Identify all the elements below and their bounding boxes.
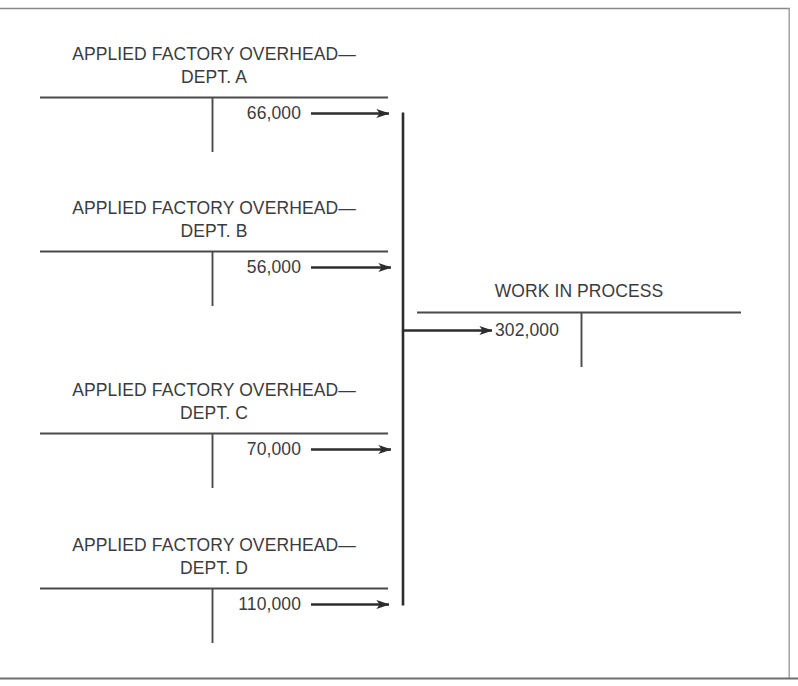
t-account-title-line2: DEPT. A (40, 66, 388, 89)
t-account-dept-b (40, 252, 391, 307)
t-account-title-line2: DEPT. D (40, 557, 388, 580)
t-account-title-dept-a: APPLIED FACTORY OVERHEAD— DEPT. A (40, 43, 388, 89)
t-account-title-line1: APPLIED FACTORY OVERHEAD— (72, 44, 356, 64)
t-account-work-in-process (417, 313, 741, 368)
t-account-title-line2: DEPT. B (40, 220, 388, 243)
t-account-title-dept-b: APPLIED FACTORY OVERHEAD— DEPT. B (40, 197, 388, 243)
t-account-title-line1: APPLIED FACTORY OVERHEAD— (72, 535, 356, 555)
t-account-title-dept-d: APPLIED FACTORY OVERHEAD— DEPT. D (40, 534, 388, 580)
t-account-dept-c (40, 434, 391, 489)
credit-amount-dept-b: 56,000 (218, 257, 301, 278)
credit-amount-dept-c: 70,000 (218, 439, 301, 460)
t-account-title-dept-c: APPLIED FACTORY OVERHEAD— DEPT. C (40, 379, 388, 425)
t-account-title-line2: DEPT. C (40, 402, 388, 425)
t-account-flow-svg (0, 0, 798, 686)
t-account-dept-d (40, 589, 389, 644)
credit-amount-dept-d: 110,000 (218, 594, 301, 615)
t-account-dept-a (40, 98, 389, 153)
debit-amount-work-in-process: 302,000 (495, 320, 559, 341)
t-account-title-work-in-process: WORK IN PROCESS (417, 281, 741, 302)
t-account-title-line1: APPLIED FACTORY OVERHEAD— (72, 380, 356, 400)
t-account-title-line1: APPLIED FACTORY OVERHEAD— (72, 198, 356, 218)
figure-canvas: APPLIED FACTORY OVERHEAD— DEPT. A 66,000… (0, 0, 798, 686)
credit-amount-dept-a: 66,000 (218, 103, 301, 124)
